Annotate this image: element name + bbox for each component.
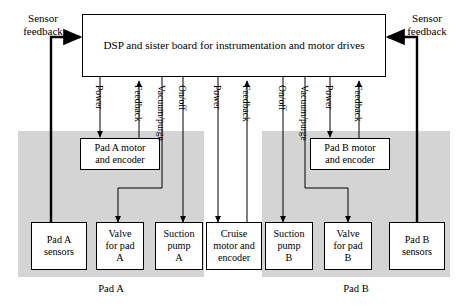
sensor-feedback-right-label: Sensor feedback bbox=[390, 12, 464, 37]
edge-label-onoff-b: On/off bbox=[277, 85, 287, 110]
suction-pump-b-label: Suction pump B bbox=[271, 228, 306, 263]
pad-a-sensors-box[interactable]: Pad A sensors bbox=[31, 222, 87, 270]
block-diagram: DSP and sister board for instrumentation… bbox=[0, 0, 468, 307]
valve-pad-a-label: Valve for pad A bbox=[103, 228, 136, 263]
edge-label-feedback-a-motor: Feedback bbox=[133, 85, 143, 122]
edge-label-feedback-cruise: Feedback bbox=[241, 85, 251, 122]
edge-label-power-b-motor: Power bbox=[324, 85, 334, 110]
cruise-motor-box[interactable]: Cruise motor and encoder bbox=[206, 222, 262, 270]
suction-pump-a-box[interactable]: Suction pump A bbox=[155, 222, 203, 270]
pad-a-sensors-label: Pad A sensors bbox=[42, 234, 76, 257]
valve-pad-b-box[interactable]: Valve for pad B bbox=[324, 222, 372, 270]
pad-a-motor-box[interactable]: Pad A motor and encoder bbox=[80, 138, 160, 170]
pad-b-sensors-label: Pad B sensors bbox=[400, 234, 434, 257]
edge-label-onoff-a: On/off bbox=[177, 85, 187, 110]
edge-label-vacuum-purge-a: Vacuum/purge bbox=[156, 85, 166, 141]
edge-label-vacuum-purge-b: Vacuum/purge bbox=[299, 85, 309, 141]
pad-a-motor-label: Pad A motor and encoder bbox=[93, 142, 148, 165]
dsp-board-box[interactable]: DSP and sister board for instrumentation… bbox=[82, 14, 386, 77]
pad-b-motor-label: Pad B motor and encoder bbox=[322, 142, 378, 165]
cruise-motor-label: Cruise motor and encoder bbox=[211, 228, 257, 263]
dsp-board-label: DSP and sister board for instrumentation… bbox=[101, 39, 366, 52]
pad-b-motor-box[interactable]: Pad B motor and encoder bbox=[310, 138, 390, 170]
edge-label-power-cruise: Power bbox=[212, 85, 222, 110]
valve-pad-a-box[interactable]: Valve for pad A bbox=[96, 222, 144, 270]
suction-pump-a-label: Suction pump A bbox=[161, 228, 196, 263]
edge-label-feedback-b-motor: Feedback bbox=[353, 85, 363, 122]
valve-pad-b-label: Valve for pad B bbox=[331, 228, 364, 263]
pad-b-zone-caption: Pad B bbox=[262, 283, 450, 294]
pad-b-sensors-box[interactable]: Pad B sensors bbox=[389, 222, 445, 270]
sensor-feedback-left-label: Sensor feedback bbox=[6, 12, 80, 37]
pad-a-zone-caption: Pad A bbox=[18, 283, 204, 294]
suction-pump-b-box[interactable]: Suction pump B bbox=[265, 222, 313, 270]
edge-label-power-a-motor: Power bbox=[94, 85, 104, 110]
